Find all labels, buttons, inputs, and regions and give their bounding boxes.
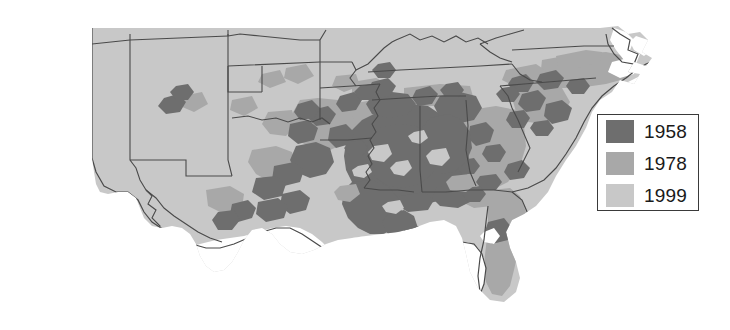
legend-item-1999: 1999	[598, 179, 698, 211]
legend-label-1999: 1999	[644, 186, 687, 205]
legend-swatch-1999	[606, 184, 634, 207]
choropleth-map-figure: 1958 1978 1999	[0, 0, 730, 330]
legend-item-1978: 1978	[598, 147, 698, 179]
legend-item-1958: 1958	[598, 115, 698, 147]
map-legend: 1958 1978 1999	[597, 114, 699, 211]
legend-label-1978: 1978	[644, 154, 687, 173]
legend-swatch-1958	[606, 120, 634, 143]
legend-swatch-1978	[606, 152, 634, 175]
legend-label-1958: 1958	[644, 122, 687, 141]
